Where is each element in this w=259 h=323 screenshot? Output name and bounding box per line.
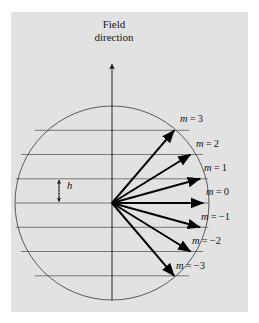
vector-m-1	[112, 179, 200, 203]
label-m-0: m = 0	[206, 186, 229, 197]
label-m-3: m = 3	[180, 113, 203, 124]
label-m-1: m = 1	[204, 162, 227, 173]
label-m-2: m = 2	[196, 138, 219, 149]
label-m-minus2: m = −2	[192, 235, 221, 246]
label-m-minus3: m = −3	[176, 260, 205, 271]
label-m-minus1: m = −1	[201, 211, 230, 222]
spacing-label: h	[67, 180, 72, 191]
momentum-vector-group	[112, 130, 203, 275]
space-quantization-figure: Field direction h m = 3 m = 2 m = 1 m = …	[0, 0, 259, 323]
vector-m-minus1	[112, 203, 200, 227]
field-direction-line-1: Field	[74, 18, 154, 31]
vector-m-minus3	[112, 203, 174, 276]
vector-m-3	[112, 130, 174, 203]
field-direction-line-2: direction	[74, 31, 154, 44]
field-direction-label: Field direction	[74, 18, 154, 43]
